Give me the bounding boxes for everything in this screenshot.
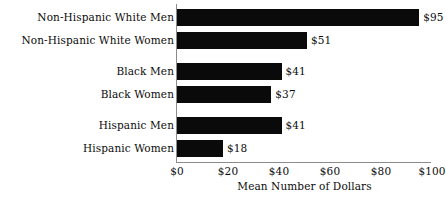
x-tick-label-1: $20 [218, 165, 238, 177]
bar-1 [177, 32, 307, 49]
x-tick-label-5: $100 [418, 165, 445, 177]
x-tick-label-3: $60 [320, 165, 340, 177]
bar-0 [177, 9, 419, 26]
category-label-2: Black Men [116, 65, 174, 77]
bar-4 [177, 117, 282, 134]
y-axis-line [176, 4, 177, 163]
plot-area: $95 $51 $41 $37 $41 $18 [177, 0, 432, 163]
category-label-5: Hispanic Women [83, 142, 174, 154]
bar-value-0: $95 [423, 9, 443, 26]
bar-value-5: $18 [227, 140, 247, 157]
bar-5 [177, 140, 223, 157]
bar-2 [177, 63, 282, 80]
x-tick-label-4: $80 [371, 165, 391, 177]
category-label-1: Non-Hispanic White Women [22, 34, 174, 46]
x-tick-label-2: $40 [269, 165, 289, 177]
bar-value-2: $41 [286, 63, 306, 80]
x-tick-label-0: $0 [170, 165, 184, 177]
bar-value-4: $41 [286, 117, 306, 134]
bar-value-1: $51 [311, 32, 331, 49]
x-axis-line [176, 162, 431, 163]
bar-3 [177, 86, 271, 103]
category-label-0: Non-Hispanic White Men [37, 11, 174, 23]
x-axis-title: Mean Number of Dollars [177, 180, 432, 192]
category-label-3: Black Women [101, 88, 174, 100]
category-label-4: Hispanic Men [99, 119, 174, 131]
bar-value-3: $37 [275, 86, 295, 103]
